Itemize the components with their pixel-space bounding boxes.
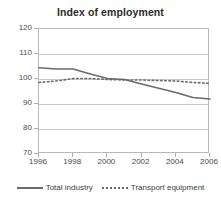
y-axis-tick-label: 100 — [8, 74, 32, 82]
legend-item-2[interactable]: Transport equipment — [102, 183, 205, 192]
x-axis-tick-label: 1996 — [23, 157, 53, 166]
y-axis-tick-mark — [34, 103, 38, 104]
solid-line-swatch-icon — [17, 187, 43, 189]
y-axis-tick-mark — [34, 53, 38, 54]
x-axis-tick-mark — [72, 153, 73, 157]
legend-label: Transport equipment — [131, 183, 205, 192]
x-axis-tick-mark — [175, 153, 176, 157]
y-axis-tick-label: 80 — [8, 124, 32, 132]
y-axis-tick-label: 90 — [8, 99, 32, 107]
x-axis-tick-mark — [106, 153, 107, 157]
y-axis-tick-label: 110 — [8, 49, 32, 57]
x-axis-tick-label: 2004 — [160, 157, 190, 166]
legend-item-1[interactable]: Total industry — [17, 183, 93, 192]
y-axis-tick-label: 70 — [8, 149, 32, 157]
plot-area — [38, 28, 209, 153]
y-axis-tick-mark — [34, 78, 38, 79]
dotted-line-swatch-icon — [102, 187, 128, 189]
x-axis-tick-mark — [141, 153, 142, 157]
chart-legend: Total industryTransport equipment — [0, 183, 221, 192]
chart-title: Index of employment — [0, 6, 221, 18]
y-axis-tick-mark — [34, 28, 38, 29]
x-axis-tick-mark — [38, 153, 39, 157]
x-axis-tick-label: 1998 — [57, 157, 87, 166]
x-axis-tick-label: 2000 — [91, 157, 121, 166]
y-axis-tick-label: 120 — [8, 24, 32, 32]
series-lines — [39, 29, 210, 154]
chart-container: Index of employment Total industryTransp… — [0, 0, 221, 204]
series-line-transport-equipment — [39, 79, 210, 84]
x-axis-tick-mark — [209, 153, 210, 157]
x-axis-tick-label: 2006 — [194, 157, 221, 166]
legend-label: Total industry — [46, 183, 93, 192]
series-line-total-industry — [39, 68, 210, 99]
y-axis-tick-mark — [34, 128, 38, 129]
x-axis-tick-label: 2002 — [126, 157, 156, 166]
